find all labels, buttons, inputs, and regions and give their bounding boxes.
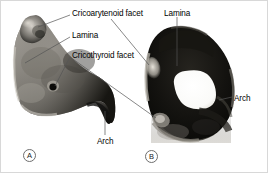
specimen-a-photo bbox=[14, 15, 116, 124]
label-arch-right: Arch bbox=[234, 94, 250, 103]
specimen-a-knob-highlight bbox=[21, 18, 35, 28]
panel-tag-a: A bbox=[23, 149, 36, 162]
figure-canvas bbox=[1, 1, 268, 173]
anatomical-figure: Cricoarytenoid facet Lamina Cricothyroid… bbox=[0, 0, 268, 173]
panel-tag-b: B bbox=[145, 150, 158, 163]
specimen-a-facet-shadow bbox=[35, 30, 45, 38]
label-cricothyroid-facet: Cricothyroid facet bbox=[72, 51, 134, 60]
specimen-b-texture-1 bbox=[157, 124, 189, 140]
label-lamina-right: Lamina bbox=[164, 9, 190, 18]
specimen-b-texture-2 bbox=[192, 119, 220, 135]
specimen-b-photo bbox=[143, 26, 234, 143]
label-cricoarytenoid-facet: Cricoarytenoid facet bbox=[72, 9, 143, 18]
label-lamina-left: Lamina bbox=[72, 31, 98, 40]
specimen-a-texture-3 bbox=[17, 83, 45, 103]
label-arch-left: Arch bbox=[97, 137, 113, 146]
